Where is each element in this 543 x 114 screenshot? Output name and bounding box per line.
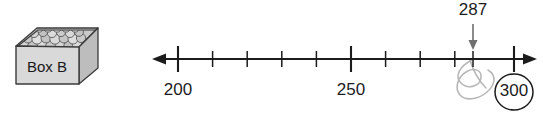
- worksheet-figure: Box B: [0, 0, 543, 114]
- box-label: Box B: [27, 58, 67, 75]
- left-arrowhead: [152, 54, 166, 65]
- right-arrowhead: [523, 54, 537, 65]
- number-line: 200 250 300 287: [148, 0, 543, 114]
- tick-label-250: 250: [337, 80, 365, 99]
- pencil-scribble-mark: [457, 60, 494, 99]
- tick-label-300: 300: [500, 81, 528, 100]
- marker-arrow-287: [469, 24, 478, 50]
- marker-label-287: 287: [459, 0, 487, 19]
- tick-label-200: 200: [164, 80, 192, 99]
- box-b-illustration: Box B: [8, 22, 104, 92]
